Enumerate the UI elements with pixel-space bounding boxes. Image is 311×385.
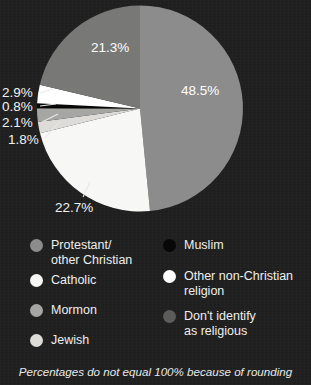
callout-label-2-1: 2.1%	[2, 115, 33, 130]
legend-label-mormon: Mormon	[51, 303, 97, 318]
legend-swatch-jewish	[30, 334, 43, 347]
legend-swatch-catholic	[30, 274, 43, 287]
legend-label-catholic: Catholic	[51, 273, 96, 288]
legend-item-muslim[interactable]: Muslim	[163, 238, 224, 253]
pie-chart-figure: 48.5% 21.3% 2.9% 0.8% 2.1% 1.8% 22.7% Pr…	[0, 0, 311, 385]
legend-swatch-not-religious	[163, 310, 176, 323]
legend-label-jewish: Jewish	[51, 333, 89, 348]
pie-chart-plot-area: 48.5% 21.3% 2.9% 0.8% 2.1% 1.8% 22.7%	[0, 0, 311, 232]
pie-svg: 48.5% 21.3% 2.9% 0.8% 2.1% 1.8% 22.7%	[0, 0, 311, 232]
legend-swatch-muslim	[163, 239, 176, 252]
slice-label-21-3: 21.3%	[91, 40, 129, 55]
pie-slices-group	[37, 6, 243, 212]
callout-label-2-9: 2.9%	[2, 85, 33, 100]
legend-item-mormon[interactable]: Mormon	[30, 303, 97, 318]
callout-label-1-8: 1.8%	[8, 132, 39, 147]
legend-label-protestant: Protestant/ other Christian	[51, 238, 132, 267]
pie-slice-48-5[interactable]	[140, 6, 243, 212]
legend-swatch-other-religion	[163, 270, 176, 283]
callout-label-22-7: 22.7%	[55, 200, 93, 215]
legend-swatch-protestant	[30, 239, 43, 252]
legend: Protestant/ other Christian Catholic Mor…	[0, 238, 311, 360]
legend-item-jewish[interactable]: Jewish	[30, 333, 89, 348]
legend-label-muslim: Muslim	[184, 238, 224, 253]
legend-item-catholic[interactable]: Catholic	[30, 273, 96, 288]
legend-item-protestant[interactable]: Protestant/ other Christian	[30, 238, 132, 267]
legend-item-other-religion[interactable]: Other non-Christian religion	[163, 269, 293, 298]
legend-swatch-mormon	[30, 304, 43, 317]
legend-label-other-religion: Other non-Christian religion	[184, 269, 293, 298]
legend-item-not-religious[interactable]: Don't identify as religious	[163, 309, 256, 338]
rounding-footnote: Percentages do not equal 100% because of…	[0, 365, 311, 378]
callout-label-0-8: 0.8%	[2, 99, 33, 114]
legend-label-not-religious: Don't identify as religious	[184, 309, 256, 338]
slice-label-48-5: 48.5%	[181, 83, 219, 98]
